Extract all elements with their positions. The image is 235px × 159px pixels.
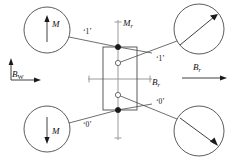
magnetization-arrow-head-bottom-left	[44, 137, 49, 144]
state-circle-bottom-right	[174, 106, 224, 156]
state-label-top-left: M	[52, 20, 60, 29]
figure-canvas	[0, 0, 235, 159]
magnetization-arrow-shaft-bottom-right	[180, 118, 214, 143]
m-axis-label-main: M	[123, 18, 131, 28]
marker-read-state-zero	[115, 92, 120, 97]
state-circle-top-left	[24, 7, 70, 53]
read-field-label: Br	[193, 63, 201, 72]
axes-group	[88, 20, 152, 140]
write-field-label: BW	[12, 70, 24, 79]
state-circle-top-right	[174, 4, 224, 54]
bit-label-bottom-right: ‘0’	[156, 98, 165, 106]
b-axis-label-sub: r	[158, 81, 161, 88]
bit-label-top-left: ‘1’	[83, 28, 92, 36]
m-axis-label: Mr	[123, 19, 133, 28]
magnetization-arrow-head-top-left	[44, 15, 49, 22]
write-field-right-arrow-head	[34, 78, 41, 83]
connector-top-right-stub	[118, 47, 152, 53]
hysteresis-figure: Mr Br BW Br M M ‘1’ ‘1’ ‘0’ ‘0’	[0, 0, 235, 159]
state-circle-bottom-left	[24, 106, 70, 152]
write-field-label-main: B	[12, 69, 18, 79]
bit-label-bottom-left: ‘0’	[83, 121, 92, 129]
write-field-up-arrow-head	[9, 58, 14, 65]
m-axis-label-sub: r	[131, 22, 134, 29]
marker-remanence-positive	[115, 44, 120, 49]
bit-label-top-right: ‘1’	[156, 55, 165, 63]
magnetization-arrow-head-bottom-right	[210, 138, 218, 147]
state-circle-outline-bottom-right	[174, 106, 224, 156]
b-axis-label-main: B	[152, 77, 158, 87]
b-axis-label: Br	[152, 78, 160, 87]
state-label-bottom-left: M	[52, 127, 60, 136]
write-field-label-sub: W	[18, 73, 24, 80]
read-field-label-sub: r	[199, 66, 202, 73]
connector-bottom-right	[118, 95, 177, 119]
marker-remanence-negative	[115, 107, 120, 112]
read-field-label-main: B	[193, 62, 199, 72]
read-field-indicator	[182, 76, 227, 81]
magnetization-arrow-shaft-top-right	[180, 17, 214, 45]
connector-bottom-left	[69, 110, 118, 123]
marker-read-state-one	[115, 60, 120, 65]
connector-top-left	[69, 37, 118, 47]
read-field-right-arrow-head	[220, 76, 227, 81]
